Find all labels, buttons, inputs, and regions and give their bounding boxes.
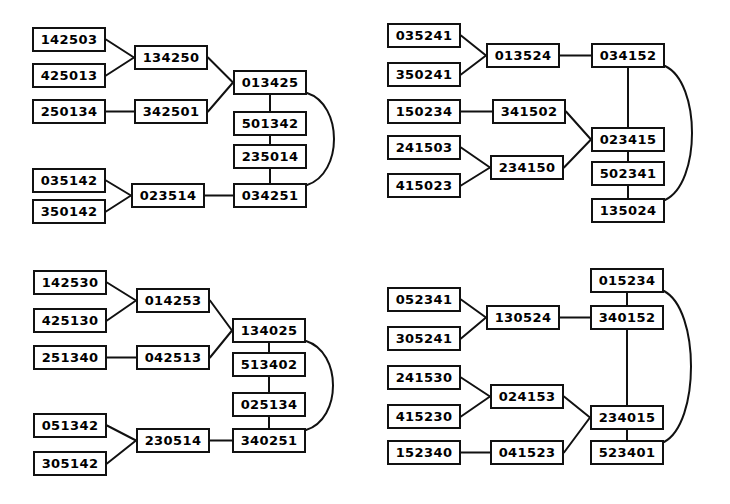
graph-node[interactable]: 034152 (591, 43, 665, 68)
graph-edge (106, 196, 131, 212)
graph-edge (566, 112, 591, 140)
graph-edge (307, 93, 334, 185)
graph-node[interactable]: 234015 (590, 405, 664, 430)
graph-node[interactable]: 235014 (233, 144, 307, 169)
graph-node[interactable]: 305241 (387, 326, 461, 351)
graph-node[interactable]: 023514 (131, 183, 205, 208)
graph-edge (564, 397, 590, 418)
diagram-top-left: 1425034250131342502501343425010134255013… (0, 0, 365, 252)
graph-node[interactable]: 135024 (591, 198, 665, 223)
graph-edge (106, 40, 134, 58)
graph-edge (210, 301, 232, 331)
graph-edge (665, 66, 692, 200)
graph-node[interactable]: 023415 (591, 127, 665, 152)
graph-node[interactable]: 142530 (33, 270, 107, 295)
graph-node[interactable]: 502341 (591, 161, 665, 186)
graph-node[interactable]: 015234 (590, 268, 664, 293)
graph-node[interactable]: 130524 (486, 305, 560, 330)
graph-edge (461, 378, 490, 397)
graph-node[interactable]: 415230 (387, 404, 461, 429)
graph-node[interactable]: 014253 (136, 288, 210, 313)
graph-node[interactable]: 341502 (492, 99, 566, 124)
graph-node[interactable]: 340251 (232, 428, 306, 453)
graph-edge (461, 56, 486, 75)
graph-edge (461, 168, 490, 186)
graph-node[interactable]: 251340 (33, 345, 107, 370)
graph-node[interactable]: 142503 (32, 27, 106, 52)
graph-edge (461, 397, 490, 417)
graph-node[interactable]: 415023 (387, 173, 461, 198)
graph-edge (564, 418, 590, 453)
graph-node[interactable]: 425130 (33, 308, 107, 333)
diagram-bottom-right: 0152340523413052411305243401522415304152… (365, 252, 730, 504)
graph-node[interactable]: 025134 (232, 392, 306, 417)
graph-node[interactable]: 250134 (32, 99, 106, 124)
graph-node[interactable]: 024153 (490, 384, 564, 409)
graph-node[interactable]: 035241 (387, 23, 461, 48)
graph-edge (208, 83, 233, 112)
graph-edge (461, 36, 486, 56)
graph-node[interactable]: 501342 (233, 111, 307, 136)
graph-node[interactable]: 241503 (387, 135, 461, 160)
graph-node[interactable]: 350142 (32, 199, 106, 224)
graph-edge (461, 318, 486, 339)
graph-node[interactable]: 013425 (233, 70, 307, 95)
graph-node[interactable]: 305142 (33, 451, 107, 476)
graph-node[interactable]: 042513 (136, 345, 210, 370)
graph-node[interactable]: 342501 (134, 99, 208, 124)
graph-edge (106, 181, 131, 196)
graph-edge (106, 58, 134, 76)
graph-edge (306, 341, 333, 430)
graph-node[interactable]: 051342 (33, 413, 107, 438)
graph-edge (210, 331, 232, 358)
graph-node[interactable]: 041523 (490, 440, 564, 465)
graph-node[interactable]: 013524 (486, 43, 560, 68)
graph-node[interactable]: 523401 (590, 440, 664, 465)
diagram-top-right: 0352413502410135240341521502343415022415… (365, 0, 730, 252)
graph-edge (107, 441, 136, 464)
graph-edge (461, 300, 486, 318)
diagram-bottom-left: 1425304251300142532513400425131340255134… (0, 252, 365, 504)
graph-node[interactable]: 034251 (233, 183, 307, 208)
graph-node[interactable]: 035142 (32, 168, 106, 193)
graph-edge (564, 140, 591, 168)
graph-node[interactable]: 052341 (387, 287, 461, 312)
graph-node[interactable]: 134025 (232, 318, 306, 343)
graph-edge (664, 291, 691, 442)
graph-edge (107, 283, 136, 301)
graph-node[interactable]: 513402 (232, 352, 306, 377)
graph-edge (107, 301, 136, 321)
graph-node[interactable]: 152340 (387, 440, 461, 465)
graph-node[interactable]: 425013 (32, 63, 106, 88)
graph-edge (107, 426, 136, 441)
graph-node[interactable]: 241530 (387, 365, 461, 390)
graph-node[interactable]: 340152 (590, 305, 664, 330)
graph-figure: 1425034250131342502501343425010134255013… (0, 0, 730, 504)
graph-edge (208, 58, 233, 83)
graph-edge (461, 148, 490, 168)
graph-node[interactable]: 230514 (136, 428, 210, 453)
graph-node[interactable]: 150234 (387, 99, 461, 124)
graph-node[interactable]: 134250 (134, 45, 208, 70)
graph-node[interactable]: 350241 (387, 62, 461, 87)
graph-node[interactable]: 234150 (490, 155, 564, 180)
